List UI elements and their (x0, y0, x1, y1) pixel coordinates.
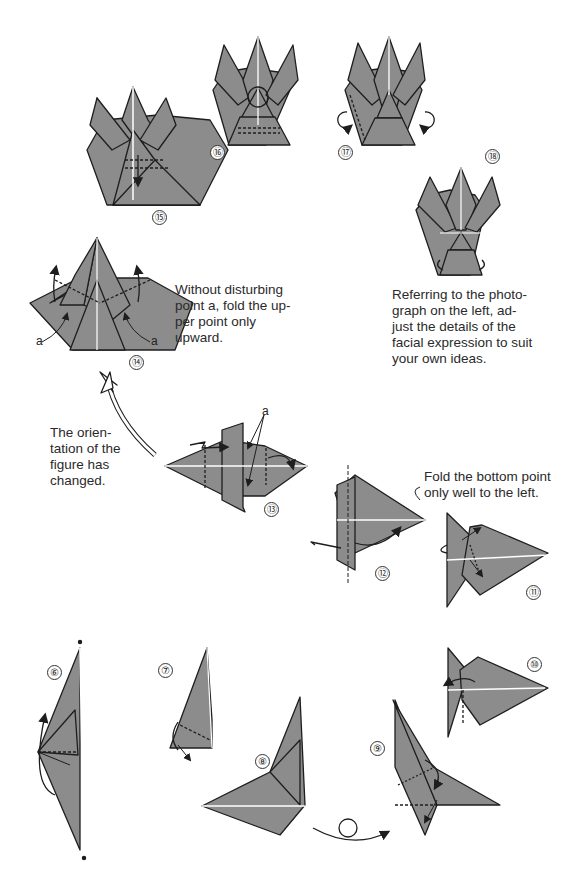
point-a-label-left: a (36, 334, 43, 348)
caption-step-18: Referring to the photo- graph on the lef… (392, 287, 532, 367)
step-number-16: ⑯ (210, 145, 225, 160)
step-number-8: ⑧ (255, 754, 270, 769)
step-number-18: ⑱ (485, 149, 500, 164)
step-16-figure (213, 37, 298, 145)
step-number-13: ⑬ (264, 502, 279, 517)
step-8-figure (202, 697, 305, 835)
step-7-figure (170, 648, 212, 760)
caption-step-12: Fold the bottom point only well to the l… (424, 469, 551, 501)
step-14-figure (30, 238, 193, 350)
step-number-11: ⑪ (526, 585, 541, 600)
step-number-7: ⑦ (158, 663, 173, 678)
step-number-14: ⑭ (129, 355, 144, 370)
step-15-figure (87, 87, 228, 205)
step-number-6: ⑥ (47, 665, 62, 680)
caption-step-14: Without disturbing point a, fold the up-… (175, 282, 291, 346)
step-number-12: ⑫ (375, 566, 390, 581)
point-a-label-right: a (151, 334, 158, 348)
step-13-figure (165, 415, 307, 512)
turn-over-arrow (313, 819, 388, 840)
step-number-17: ⑰ (338, 145, 353, 160)
point-a-label-step13: a (262, 404, 269, 418)
step-number-15: ⑮ (152, 210, 167, 225)
step-17-figure (338, 37, 434, 145)
caption-orientation: The orien- tation of the figure has chan… (50, 425, 121, 489)
step-12-figure (311, 465, 425, 585)
step-number-10: ⑩ (527, 657, 542, 672)
step-number-9: ⑨ (370, 741, 385, 756)
step-18-figure (416, 168, 500, 275)
